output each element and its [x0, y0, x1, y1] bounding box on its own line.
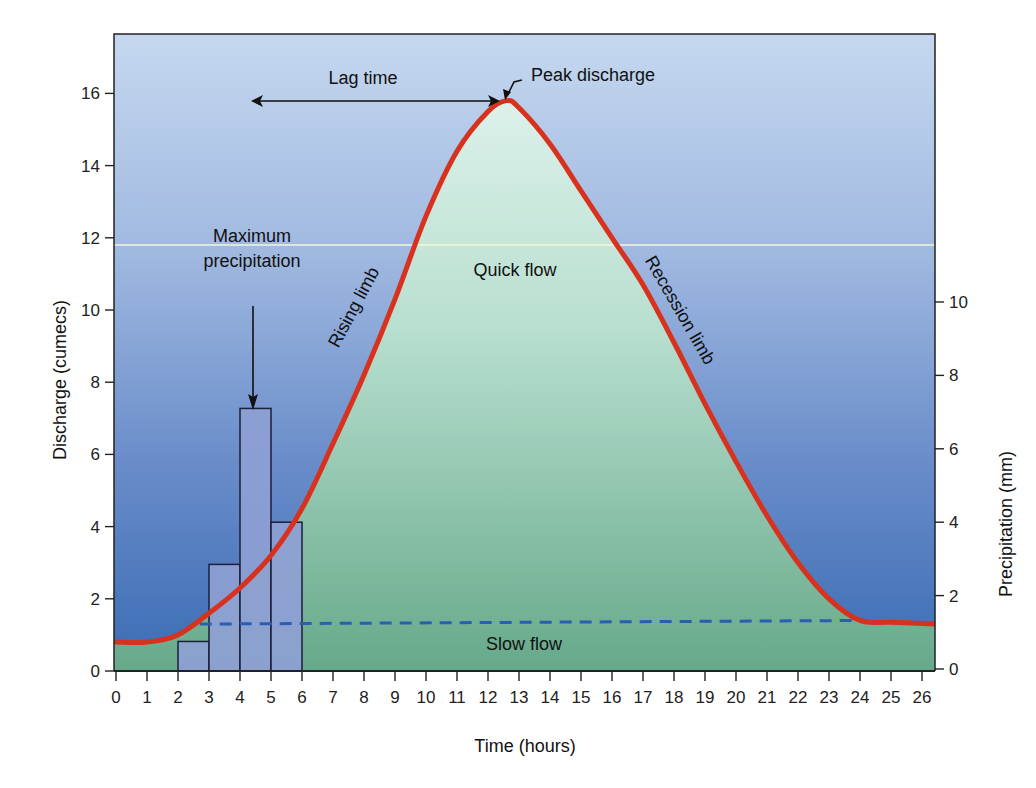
x-axis-ticks: 0123456789101112131415161718192021222324… — [111, 671, 931, 707]
y-tick-label: 16 — [81, 84, 100, 103]
y-tick-label: 0 — [91, 662, 100, 681]
y2-axis-title: Precipitation (mm) — [996, 451, 1016, 597]
precipitation-bar — [240, 408, 271, 671]
x-tick-label: 5 — [266, 688, 275, 707]
y-axis-title: Discharge (cumecs) — [50, 300, 70, 460]
x-tick-label: 10 — [417, 688, 436, 707]
y-axis-ticks: 0246810121416 — [81, 84, 114, 681]
x-tick-label: 20 — [727, 688, 746, 707]
x-tick-label: 3 — [204, 688, 213, 707]
y-tick-label: 6 — [91, 445, 100, 464]
x-tick-label: 4 — [235, 688, 244, 707]
y-tick-label: 10 — [81, 301, 100, 320]
y-tick-label: 2 — [91, 590, 100, 609]
y2-tick-label: 6 — [949, 440, 958, 459]
y2-axis-ticks: 0246810 — [935, 293, 968, 679]
x-tick-label: 21 — [758, 688, 777, 707]
x-tick-label: 13 — [510, 688, 529, 707]
x-tick-label: 9 — [390, 688, 399, 707]
x-tick-label: 25 — [882, 688, 901, 707]
precipitation-bar — [209, 564, 240, 671]
y2-tick-label: 2 — [949, 587, 958, 606]
x-tick-label: 26 — [913, 688, 932, 707]
x-tick-label: 23 — [820, 688, 839, 707]
slow-flow-label: Slow flow — [486, 634, 563, 654]
x-tick-label: 11 — [448, 688, 466, 707]
y2-tick-label: 0 — [949, 660, 958, 679]
x-tick-label: 17 — [634, 688, 653, 707]
quick-flow-label: Quick flow — [473, 260, 557, 280]
x-tick-label: 1 — [142, 688, 151, 707]
hydrograph-chart: 0123456789101112131415161718192021222324… — [0, 0, 1036, 788]
y-tick-label: 8 — [91, 373, 100, 392]
x-tick-label: 15 — [572, 688, 591, 707]
x-axis-title: Time (hours) — [474, 736, 575, 756]
x-tick-label: 18 — [665, 688, 684, 707]
max-precip-line1: Maximum — [213, 226, 291, 246]
y-tick-label: 12 — [81, 229, 100, 248]
x-tick-label: 24 — [851, 688, 870, 707]
x-tick-label: 16 — [603, 688, 622, 707]
y-tick-label: 4 — [91, 518, 100, 537]
y-tick-label: 14 — [81, 157, 100, 176]
x-tick-label: 7 — [328, 688, 337, 707]
x-tick-label: 14 — [541, 688, 560, 707]
y2-tick-label: 8 — [949, 366, 958, 385]
x-tick-label: 22 — [789, 688, 808, 707]
x-tick-label: 6 — [297, 688, 306, 707]
max-precip-line2: precipitation — [203, 251, 300, 271]
x-tick-label: 0 — [111, 688, 120, 707]
x-tick-label: 8 — [359, 688, 368, 707]
peak-discharge-label: Peak discharge — [531, 65, 655, 85]
lag-time-label: Lag time — [328, 68, 397, 88]
x-tick-label: 12 — [479, 688, 498, 707]
precipitation-bar — [271, 522, 302, 671]
x-tick-label: 2 — [173, 688, 182, 707]
y2-tick-label: 10 — [949, 293, 968, 312]
y2-tick-label: 4 — [949, 513, 958, 532]
precipitation-bar — [178, 641, 209, 671]
x-tick-label: 19 — [696, 688, 715, 707]
